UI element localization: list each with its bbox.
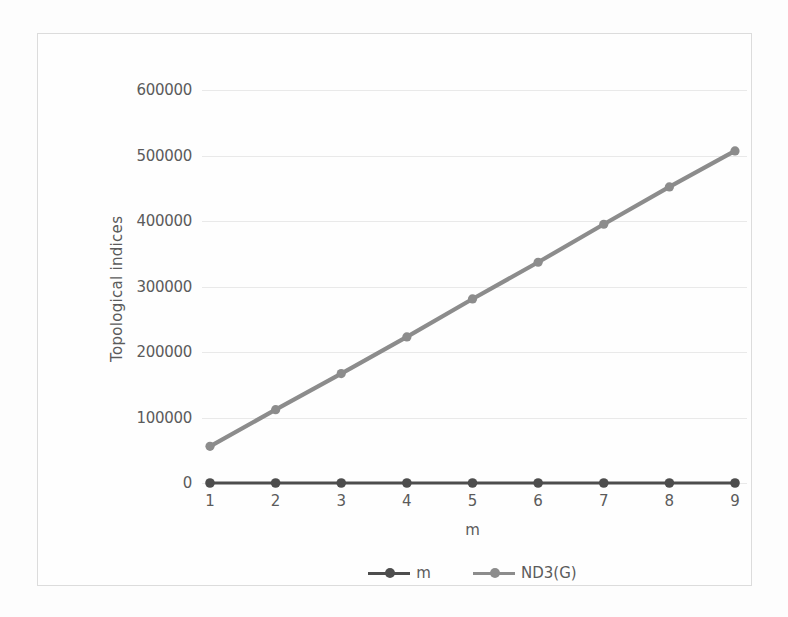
data-point-marker [533,478,543,488]
legend-marker-m-icon [368,567,410,579]
y-axis-title-container: Topological indices [116,204,136,404]
data-point-marker [468,478,478,488]
data-point-marker [336,478,346,488]
chart-page: Topological indices 01000002000003000004… [0,0,788,617]
x-axis-tick-label: 9 [730,492,740,510]
x-axis-tick-label: 2 [271,492,281,510]
data-point-marker [205,442,214,451]
y-axis-tick-label: 500000 [137,147,192,165]
data-point-marker [402,332,411,341]
series-m [205,478,740,488]
y-axis-tick-label: 400000 [137,212,192,230]
x-axis-tick-label: 8 [665,492,675,510]
data-point-marker [534,258,543,267]
legend-item-nd3g[interactable]: ND3(G) [473,564,577,582]
data-point-marker [271,478,281,488]
legend-label-m: m [416,564,431,582]
chart-frame: Topological indices 01000002000003000004… [37,33,752,586]
y-axis-tick-label: 600000 [137,81,192,99]
data-point-marker [271,405,280,414]
x-axis-tick-label: 3 [336,492,346,510]
legend-marker-nd3g-icon [473,567,515,579]
data-point-marker [599,478,609,488]
series-nd3g [205,146,739,451]
data-point-marker [730,146,739,155]
data-point-marker [468,294,477,303]
plot-area: 0100000200000300000400000500000600000 12… [210,90,735,483]
data-point-marker [205,478,215,488]
y-axis-tick-label: 0 [183,474,192,492]
y-axis-title: Topological indices [108,216,126,362]
x-axis-tick-label: 5 [468,492,478,510]
data-point-marker [665,182,674,191]
legend-item-m[interactable]: m [368,564,431,582]
series-layer [210,90,735,483]
data-point-marker [599,220,608,229]
chart-legend: m ND3(G) [210,564,735,582]
data-point-marker [337,369,346,378]
legend-label-nd3g: ND3(G) [521,564,577,582]
x-axis-title: m [210,521,735,539]
data-point-marker [730,478,740,488]
data-point-marker [402,478,412,488]
y-axis-tick-label: 200000 [137,343,192,361]
y-axis-tick-label: 100000 [137,409,192,427]
data-point-marker [665,478,675,488]
x-axis-tick-label: 1 [205,492,215,510]
x-axis-tick-label: 7 [599,492,609,510]
x-axis-tick-label: 4 [402,492,412,510]
x-axis-tick-label: 6 [533,492,543,510]
y-axis-tick-label: 300000 [137,278,192,296]
